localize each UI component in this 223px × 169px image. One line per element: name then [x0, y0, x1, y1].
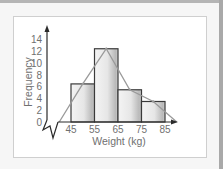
histogram-bars — [71, 49, 165, 122]
x-tick-label: 85 — [159, 124, 171, 135]
polygon-point — [152, 100, 154, 102]
histogram-bar — [95, 49, 119, 122]
axis-break-zigzag-icon — [43, 120, 58, 138]
polygon-point — [129, 89, 131, 91]
x-tick-label: 45 — [65, 124, 77, 135]
y-axis-arrow-icon — [45, 25, 50, 32]
y-tick-label: 4 — [36, 93, 42, 104]
x-tick-label: 65 — [112, 124, 124, 135]
y-tick-label: 12 — [31, 46, 43, 57]
polygon-point — [82, 83, 84, 85]
polygon-point — [105, 48, 107, 50]
y-tick-label: 2 — [36, 105, 42, 116]
x-tick-label: 55 — [89, 124, 101, 135]
histogram-bar — [71, 84, 95, 122]
x-tick-label: 75 — [136, 124, 148, 135]
x-axis-label: Weight (kg) — [92, 135, 146, 147]
histogram-chart: 02468101214 4555657585 Frequency Weight … — [0, 0, 223, 169]
histogram-bar — [118, 90, 142, 122]
x-tick-labels: 4555657585 — [65, 124, 171, 135]
y-tick-label: 8 — [36, 70, 42, 81]
histogram-bar — [142, 101, 166, 122]
y-axis-label: Frequency — [22, 56, 34, 106]
y-tick-label: 6 — [36, 81, 42, 92]
y-tick-label: 14 — [31, 34, 43, 45]
y-tick-label: 0 — [36, 117, 42, 128]
